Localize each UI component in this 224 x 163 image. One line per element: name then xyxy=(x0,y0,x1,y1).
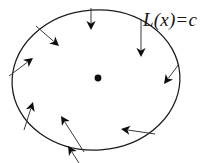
vector-right-inward-shaft xyxy=(168,64,179,78)
label-function-name: L xyxy=(143,9,154,30)
label-argument: x xyxy=(160,9,169,30)
level-set-label: L(x)=c xyxy=(143,9,197,31)
center-point xyxy=(95,75,102,82)
vector-left-upper-inward-shaft xyxy=(9,62,27,76)
vector-bottom-center-up-shaft xyxy=(72,152,79,163)
gradient-vector-field xyxy=(9,8,179,163)
vector-right-inward-head xyxy=(164,74,173,84)
vector-bottom-left-up-shaft xyxy=(65,122,84,152)
vector-bottom-left-up-head xyxy=(61,116,70,126)
level-set-diagram: L(x)=c xyxy=(0,0,224,163)
label-constant: c xyxy=(188,9,197,30)
label-equals-sign: = xyxy=(175,9,188,30)
vector-left-upper-inward-head xyxy=(23,58,33,67)
vector-top-left-diagonal-shaft xyxy=(36,26,54,41)
vector-top-left-diagonal-head xyxy=(49,37,59,46)
